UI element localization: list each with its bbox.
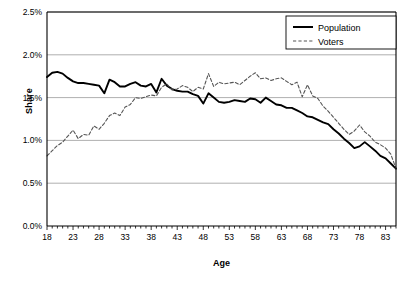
legend-label-voters: Voters: [318, 37, 344, 47]
svg-text:18: 18: [42, 232, 52, 242]
svg-text:0.5%: 0.5%: [23, 178, 43, 188]
line-chart-plot: 0.0%0.5%1.0%1.5%2.0%2.5% 182328333843485…: [0, 0, 407, 281]
svg-text:53: 53: [225, 232, 235, 242]
svg-text:48: 48: [199, 232, 209, 242]
data-series-group: [47, 72, 396, 169]
svg-text:1.0%: 1.0%: [23, 135, 43, 145]
series-line-population: [47, 72, 396, 169]
x-axis-tick-labels: 1823283338434853586368737883: [42, 232, 390, 242]
svg-text:83: 83: [381, 232, 391, 242]
svg-text:33: 33: [120, 232, 130, 242]
svg-text:78: 78: [355, 232, 365, 242]
svg-text:58: 58: [251, 232, 261, 242]
svg-text:43: 43: [172, 232, 182, 242]
svg-text:2.0%: 2.0%: [23, 50, 43, 60]
svg-text:2.5%: 2.5%: [23, 7, 43, 17]
svg-text:0.0%: 0.0%: [23, 221, 43, 231]
x-axis-ticks: [47, 226, 396, 230]
y-axis-title: Share: [24, 71, 34, 131]
svg-text:68: 68: [303, 232, 313, 242]
svg-text:63: 63: [277, 232, 287, 242]
chart-container: 0.0%0.5%1.0%1.5%2.0%2.5% 182328333843485…: [0, 0, 407, 281]
x-axis-title: Age: [47, 258, 396, 268]
svg-text:28: 28: [94, 232, 104, 242]
chart-legend: PopulationVoters: [286, 16, 396, 49]
svg-text:38: 38: [146, 232, 156, 242]
svg-text:23: 23: [68, 232, 78, 242]
legend-label-population: Population: [318, 23, 361, 33]
svg-text:73: 73: [329, 232, 339, 242]
